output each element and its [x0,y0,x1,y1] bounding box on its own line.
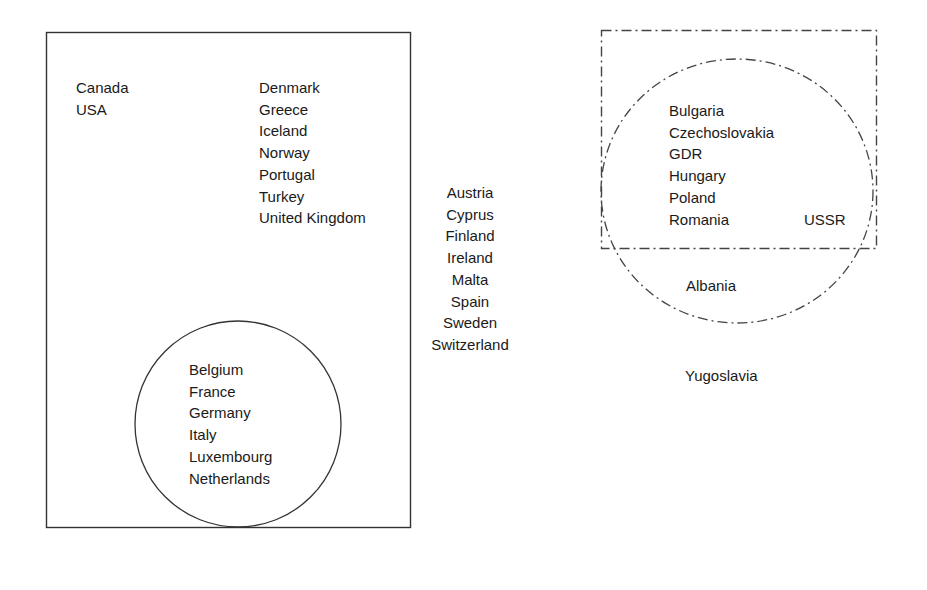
country-label: Romania [669,209,774,231]
country-label: Belgium [189,359,272,381]
country-label: Portugal [259,164,366,186]
country-label: Ireland [410,247,530,269]
ec-members-list: Belgium France Germany Italy Luxembourg … [189,359,272,489]
country-label: Finland [410,225,530,247]
country-label: Denmark [259,77,366,99]
country-label: GDR [669,143,774,165]
neutral-countries-list: Austria Cyprus Finland Ireland Malta Spa… [410,182,530,356]
country-label: Greece [259,99,366,121]
country-label: USA [76,99,129,121]
country-label: Bulgaria [669,100,774,122]
albania-label: Albania [686,277,736,294]
country-label: Poland [669,187,774,209]
country-label: Cyprus [410,204,530,226]
country-label: France [189,381,272,403]
ussr-label: USSR [804,211,846,228]
country-label: Canada [76,77,129,99]
country-label: Hungary [669,165,774,187]
nato-europe-list: Denmark Greece Iceland Norway Portugal T… [259,77,366,229]
country-label: Austria [410,182,530,204]
country-label: Norway [259,142,366,164]
country-label: Switzerland [410,334,530,356]
country-label: Czechoslovakia [669,122,774,144]
country-label: Luxembourg [189,446,272,468]
country-label: Malta [410,269,530,291]
country-label: Netherlands [189,468,272,490]
country-label: Italy [189,424,272,446]
country-label: Iceland [259,120,366,142]
country-label: Turkey [259,186,366,208]
warsaw-members-list: Bulgaria Czechoslovakia GDR Hungary Pola… [669,100,774,230]
country-label: Spain [410,291,530,313]
country-label: United Kingdom [259,207,366,229]
yugoslavia-label: Yugoslavia [685,367,758,384]
country-label: Germany [189,402,272,424]
country-label: Sweden [410,312,530,334]
nato-north-america-list: Canada USA [76,77,129,120]
